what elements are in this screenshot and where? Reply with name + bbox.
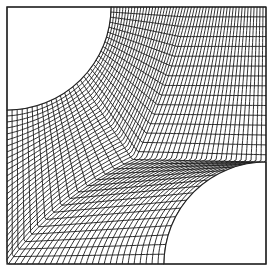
mesh-diagram (0, 0, 273, 271)
mesh-line-eta (80, 80, 263, 162)
mesh-line-eta (42, 104, 187, 212)
bottom-right-circular-cutout (164, 162, 266, 264)
